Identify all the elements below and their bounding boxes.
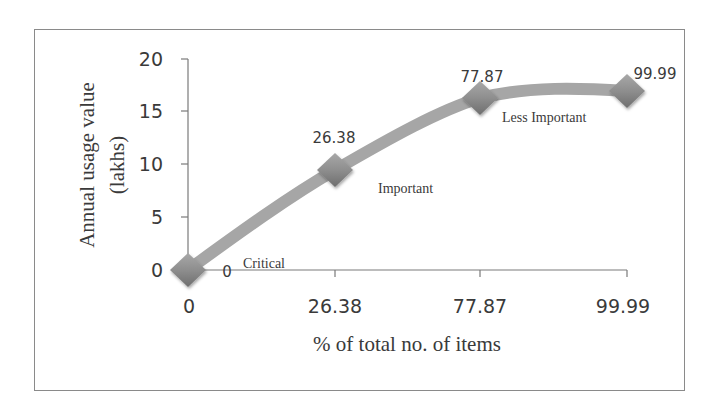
y-tick-label: 5 — [151, 206, 163, 228]
annotation-critical: Critical — [243, 256, 285, 271]
x-tick-label: 77.87 — [453, 295, 507, 317]
svg-text:Annual usage value: Annual usage value — [75, 82, 99, 248]
diamond-marker — [462, 81, 498, 115]
data-label: 0 — [222, 263, 232, 281]
y-tick-label: 10 — [139, 153, 163, 175]
x-tick-label: 99.99 — [596, 295, 650, 317]
y-axis: 20 15 10 5 0 — [139, 48, 188, 281]
y-tick-label: 0 — [151, 259, 163, 281]
y-tick-label: 15 — [139, 100, 163, 122]
svg-text:(lakhs): (lakhs) — [105, 136, 129, 194]
line-chart: 20 15 10 5 0 0 26.38 77.87 99.99 % of to… — [0, 0, 717, 414]
annotation-less-important: Less Important — [502, 110, 586, 125]
y-tick-label: 20 — [139, 48, 163, 70]
y-axis-title: Annual usage value (lakhs) — [75, 82, 129, 248]
data-label: 99.99 — [634, 65, 677, 83]
x-tick-label: 26.38 — [308, 295, 362, 317]
data-label: 26.38 — [313, 129, 356, 147]
x-axis-title: % of total no. of items — [313, 332, 501, 356]
x-axis: 0 26.38 77.87 99.99 — [183, 270, 650, 317]
data-label: 77.87 — [461, 68, 504, 86]
x-tick-label: 0 — [183, 295, 195, 317]
annotation-important: Important — [378, 181, 433, 196]
